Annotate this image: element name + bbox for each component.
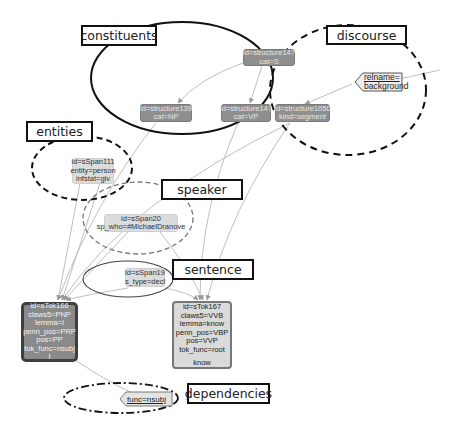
node-sp-who: sp_who=#MichaelDranove	[97, 223, 186, 232]
tok-text: I	[48, 353, 50, 362]
node-infstat: infstat=giv	[76, 175, 110, 184]
span-node-speaker[interactable]: id=sSpan20 sp_who=#MichaelDranove	[104, 214, 178, 232]
tok-text: know	[193, 359, 211, 368]
edge-rel-seg	[305, 84, 352, 104]
annotation-graph: constituents discourse entities speaker …	[0, 0, 449, 432]
node-kind: kind=segment	[279, 113, 326, 122]
token-node-166[interactable]: id=sTok166 claws5=PNP lemma=I penn_pos=P…	[21, 302, 78, 362]
span-node-sentence[interactable]: id=sSpan19 s_type=decl	[125, 268, 165, 287]
structure-node-segment[interactable]: id=structure1050 kind=segment	[275, 104, 330, 122]
speaker-layer-label[interactable]: speaker	[161, 179, 243, 200]
constituents-layer-label[interactable]: constituents	[81, 25, 157, 46]
edge-sentence-tok166	[66, 288, 128, 300]
node-cat: cat=S	[259, 58, 278, 67]
structure-node-s[interactable]: id=structure14? cat=S	[243, 49, 295, 66]
func-key: func=nsubj	[127, 395, 172, 404]
edge-sentence-tok167	[165, 288, 198, 300]
dependencies-layer-label[interactable]: dependencies	[187, 383, 270, 404]
structure-node-np[interactable]: id=structure139 cat=NP	[140, 104, 192, 122]
structure-node-vp[interactable]: id=structure14? cat=VP	[221, 104, 271, 122]
sentence-layer-label[interactable]: sentence	[172, 259, 254, 280]
token-node-167[interactable]: id=sTok167 claws5=VVB lemma=know penn_po…	[172, 301, 232, 369]
entities-layer-label[interactable]: entities	[26, 121, 93, 142]
tok-func: tok_func=root	[179, 346, 225, 355]
node-s-type: s_type=decl	[125, 278, 165, 287]
edge-s-vp	[250, 66, 262, 103]
span-node-entity[interactable]: id=sSpan111 entity=person infstat=giv	[72, 158, 114, 184]
node-cat: cat=NP	[154, 113, 179, 122]
node-cat: cat=VP	[234, 113, 258, 122]
discourse-layer-label[interactable]: discourse	[326, 25, 407, 45]
edge-s-np	[178, 63, 243, 103]
relname-edge-label[interactable]: relname= background	[364, 73, 402, 91]
relname-value: background	[364, 82, 402, 91]
func-edge-label[interactable]: func=nsubj	[127, 393, 172, 406]
